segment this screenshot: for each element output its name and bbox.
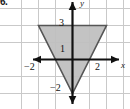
coordinate-plane-svg: [0, 0, 130, 109]
y-tick-label-3: 3: [59, 18, 64, 28]
y-tick-label-negative-2: −2: [50, 83, 61, 93]
x-tick-label-2: 2: [95, 62, 100, 72]
x-axis-label: x: [121, 61, 125, 70]
y-axis-label: y: [80, 0, 84, 8]
graph-figure: 6. y: [0, 0, 130, 109]
x-tick-label-negative-2: −2: [24, 62, 35, 72]
exercise-number-label: 6.: [0, 0, 7, 7]
y-tick-label-1: 1: [60, 44, 65, 54]
